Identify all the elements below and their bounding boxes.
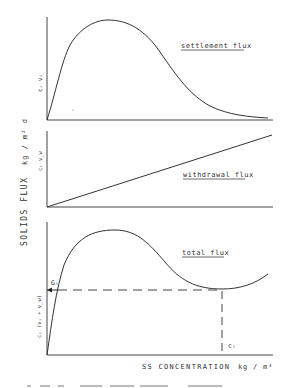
y-axis-title: SOLIDS FLUX	[20, 177, 29, 246]
withdrawal-y-label: cᵢ v_w	[37, 150, 44, 171]
y-axis-units: kg / m² d	[21, 118, 29, 165]
settlement-label: settlement flux	[181, 42, 252, 50]
limiting-flux-label: Gₗ	[51, 279, 59, 287]
arrow-left-icon	[47, 288, 52, 293]
total-y-label: cᵢ (vᵢ + v_w)	[36, 295, 43, 338]
withdrawal-label: withdrawal flux	[183, 171, 254, 179]
x-axis-units: kg / m³	[238, 363, 273, 371]
panel-total: total flux Gₗ cₗ cᵢ (vᵢ + v_w)	[36, 222, 273, 355]
speck	[72, 109, 73, 110]
panel-withdrawal: withdrawal flux cᵢ v_w	[37, 131, 273, 207]
total-flux-label: total flux	[182, 249, 229, 257]
solids-flux-figure: settlement flux cᵢ vᵢ withdrawal flux cᵢ…	[0, 0, 289, 388]
panel-settlement: settlement flux cᵢ vᵢ	[36, 17, 273, 120]
x-axis-title: SS CONCENTRATION	[142, 363, 230, 371]
limiting-conc-label: cₗ	[228, 342, 236, 350]
settlement-y-label: cᵢ vᵢ	[36, 74, 43, 92]
cropped-caption	[27, 385, 222, 387]
settlement-curve	[47, 20, 268, 120]
total-flux-curve	[47, 230, 268, 355]
